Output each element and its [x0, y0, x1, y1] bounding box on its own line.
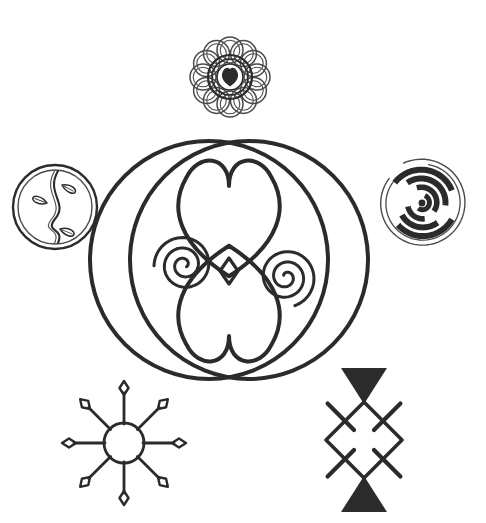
artwork-canvas: Decorative line-art symbol sheet: [0, 0, 486, 523]
spiral-core: [419, 200, 426, 207]
symbol-sheet-svg: [0, 0, 486, 523]
